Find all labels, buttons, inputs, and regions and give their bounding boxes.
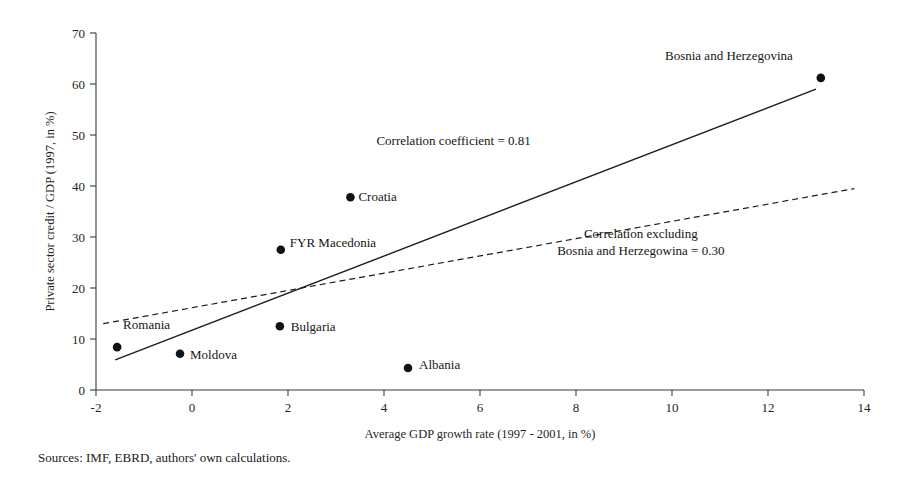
source-note: Sources: IMF, EBRD, authors' own calcula… [38,450,291,466]
data-point-label: Bulgaria [291,319,336,334]
data-point-marker[interactable] [346,193,355,202]
y-tick-label: 30 [72,230,85,245]
y-tick-label: 70 [72,26,85,41]
data-point-marker[interactable] [276,322,285,331]
x-tick-label: 6 [477,400,484,415]
x-tick-label: 2 [285,400,292,415]
data-point-marker[interactable] [277,245,286,254]
y-axis-title: Private sector credit / GDP (1997, in %) [43,111,57,311]
figure-container: 010203040506070-202468101214Average GDP … [0,0,915,482]
y-tick-label: 60 [72,77,85,92]
data-point-label: FYR Macedonia [290,235,377,250]
x-axis-title: Average GDP growth rate (1997 - 2001, in… [365,427,596,441]
x-tick-label: -2 [91,400,102,415]
x-tick-label: 0 [189,400,196,415]
data-points-group: RomaniaMoldovaBulgariaFYR MacedoniaCroat… [113,48,825,372]
x-axis-ticks: -202468101214 [91,390,871,415]
y-tick-label: 0 [79,383,86,398]
y-tick-label: 20 [72,281,85,296]
x-tick-label: 4 [381,400,388,415]
y-tick-label: 40 [72,179,85,194]
y-axis-title-group: Private sector credit / GDP (1997, in %) [43,111,57,311]
annotation-correlation-coefficient-excluding: Correlation excluding [584,226,698,241]
x-tick-label: 12 [762,400,775,415]
trendline-correlation-excluding-bosnia [103,189,854,324]
data-point-label: Albania [419,357,460,372]
y-tick-label: 50 [72,128,85,143]
x-tick-label: 8 [573,400,580,415]
axes-group [96,33,864,390]
y-tick-label: 10 [72,332,85,347]
data-point-label: Bosnia and Herzegovina [665,48,793,63]
scatter-chart: 010203040506070-202468101214Average GDP … [0,0,915,482]
data-point-marker[interactable] [817,74,826,83]
trendline-correlation-including-bosnia [115,89,816,360]
data-point-label: Moldova [190,347,237,362]
annotation-correlation-coefficient-excluding: Bosnia and Herzegowina = 0.30 [557,243,724,258]
y-axis-ticks: 010203040506070 [72,26,96,398]
annotation-correlation-coefficient-all: Correlation coefficient = 0.81 [376,133,530,148]
data-point-marker[interactable] [176,349,185,358]
x-tick-label: 10 [666,400,679,415]
data-point-label: Croatia [358,189,396,204]
data-point-marker[interactable] [404,364,413,373]
x-tick-label: 14 [858,400,872,415]
trendlines-group [103,89,854,360]
data-point-label: Romania [123,317,170,332]
data-point-marker[interactable] [113,343,122,352]
